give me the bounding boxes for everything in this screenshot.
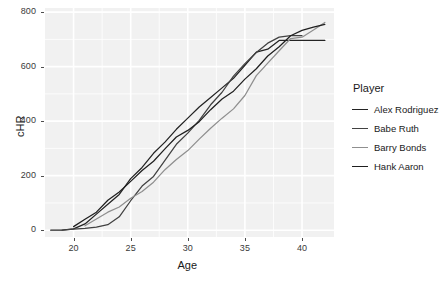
x-tick-label: 30 [175, 243, 201, 253]
series-line-2 [85, 22, 325, 225]
legend-key-line-icon [352, 104, 368, 115]
y-tick-mark [41, 121, 44, 122]
y-tick-mark [41, 176, 44, 177]
x-axis-title: Age [178, 259, 198, 271]
chart-container: 0200400600800 2025303540 cHR Age Player … [0, 0, 447, 282]
y-tick-label: 600 [12, 61, 36, 71]
y-axis-title: cHR [14, 115, 26, 136]
y-tick-label: 200 [12, 170, 36, 180]
y-tick-mark [41, 230, 44, 231]
y-tick-label: 800 [12, 6, 36, 16]
plot-panel [45, 8, 334, 237]
legend-key-line-icon [352, 161, 368, 172]
legend-title: Player [352, 82, 447, 94]
x-tick-mark [245, 238, 246, 241]
legend-items: Alex RodriguezBabe RuthBarry BondsHank A… [352, 101, 447, 175]
legend-item[interactable]: Barry Bonds [352, 139, 447, 156]
x-tick-label: 40 [289, 243, 315, 253]
x-tick-mark [74, 238, 75, 241]
x-tick-label: 20 [61, 243, 87, 253]
y-tick-mark [41, 12, 44, 13]
x-tick-label: 25 [118, 243, 144, 253]
legend-key-line-icon [352, 123, 368, 134]
y-tick-mark [41, 67, 44, 68]
data-lines [45, 8, 334, 237]
legend-item-label: Barry Bonds [374, 142, 426, 153]
legend-item-label: Hank Aaron [374, 161, 424, 172]
series-line-0 [51, 40, 325, 230]
legend-item[interactable]: Babe Ruth [352, 120, 447, 137]
legend-item-label: Alex Rodriguez [374, 104, 438, 115]
x-tick-label: 35 [232, 243, 258, 253]
series-line-3 [74, 24, 325, 226]
legend-key-line-icon [352, 142, 368, 153]
x-tick-mark [302, 238, 303, 241]
x-tick-mark [131, 238, 132, 241]
legend: Player Alex RodriguezBabe RuthBarry Bond… [352, 82, 447, 177]
x-tick-mark [188, 238, 189, 241]
legend-item[interactable]: Alex Rodriguez [352, 101, 447, 118]
legend-item[interactable]: Hank Aaron [352, 158, 447, 175]
legend-item-label: Babe Ruth [374, 123, 419, 134]
y-tick-label: 0 [12, 224, 36, 234]
